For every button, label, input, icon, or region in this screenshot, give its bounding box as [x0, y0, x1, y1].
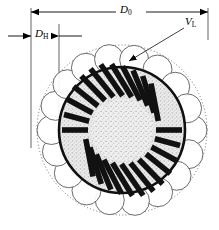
label-dh-symbol: D	[35, 27, 43, 39]
label-d0-subscript: 0	[128, 8, 132, 17]
label-vl-subscript: L	[192, 20, 197, 29]
label-vane-volume: VL	[185, 16, 196, 27]
label-strand-diameter: DH	[35, 28, 48, 39]
figure-cross-section-diagram: D0 DH VL	[0, 0, 219, 230]
label-dh-subscript: H	[43, 32, 48, 41]
diagram-canvas	[0, 0, 219, 230]
label-vl-symbol: V	[185, 15, 192, 27]
label-outer-diameter: D0	[120, 4, 132, 15]
label-d0-symbol: D	[120, 3, 128, 15]
core-inner-disc	[91, 99, 153, 161]
